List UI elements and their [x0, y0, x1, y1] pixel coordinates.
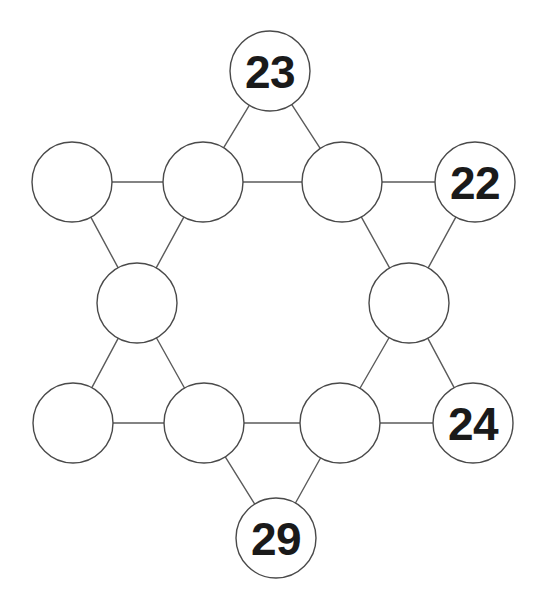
node-lower-left-outer[interactable]	[33, 383, 113, 463]
edge-upper-left-outer-to-mid-left-inner	[91, 217, 119, 268]
node-mid-right-inner[interactable]	[369, 263, 449, 343]
node-circle-lower-right-inner[interactable]	[300, 383, 380, 463]
node-circle-upper-right-inner[interactable]	[302, 142, 382, 222]
node-upper-right-inner[interactable]	[302, 142, 382, 222]
edge-upper-right-inner-to-mid-right-inner	[361, 217, 390, 269]
edge-mid-right-inner-to-lower-right-outer	[428, 338, 455, 388]
edge-mid-right-inner-to-lower-right-inner	[360, 337, 390, 389]
node-circle-lower-left-inner[interactable]	[164, 383, 244, 463]
edge-mid-left-inner-to-lower-left-outer	[92, 338, 119, 388]
puzzle-canvas: 23222429	[0, 0, 544, 603]
node-upper-left-outer[interactable]	[32, 142, 112, 222]
node-top-point[interactable]: 23	[230, 31, 310, 111]
node-mid-left-inner[interactable]	[97, 263, 177, 343]
node-label-lower-right-outer: 24	[448, 398, 499, 450]
nodes-layer: 23222429	[32, 31, 515, 578]
star-puzzle-diagram: 23222429	[0, 0, 544, 603]
node-lower-right-outer[interactable]: 24	[433, 383, 513, 463]
edge-upper-left-inner-to-mid-left-inner	[156, 217, 184, 269]
edge-upper-right-outer-to-mid-right-inner	[428, 217, 456, 269]
node-circle-lower-left-outer[interactable]	[33, 383, 113, 463]
node-circle-upper-left-inner[interactable]	[163, 142, 243, 222]
node-circle-upper-left-outer[interactable]	[32, 142, 112, 222]
edge-lower-left-inner-to-bottom-point	[225, 456, 255, 504]
node-circle-mid-right-inner[interactable]	[369, 263, 449, 343]
edge-mid-left-inner-to-lower-left-inner	[156, 337, 184, 388]
edge-top-point-to-upper-left-inner	[223, 105, 249, 148]
node-lower-right-inner[interactable]	[300, 383, 380, 463]
node-label-bottom-point: 29	[251, 513, 301, 565]
edge-top-point-to-upper-right-inner	[291, 104, 320, 149]
node-label-upper-right-outer: 22	[450, 157, 500, 209]
node-circle-mid-left-inner[interactable]	[97, 263, 177, 343]
node-upper-right-outer[interactable]: 22	[435, 142, 515, 222]
edge-lower-right-inner-to-bottom-point	[295, 458, 321, 504]
node-label-top-point: 23	[245, 46, 295, 98]
node-bottom-point[interactable]: 29	[236, 498, 316, 578]
node-upper-left-inner[interactable]	[163, 142, 243, 222]
node-lower-left-inner[interactable]	[164, 383, 244, 463]
